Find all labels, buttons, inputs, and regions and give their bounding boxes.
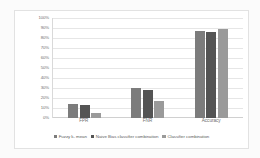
plot-wrapper: 100% 90% 80% 70% 60% 50% 40% 30% 20% 10%… (31, 18, 243, 125)
bar-fpr-series-2 (91, 113, 101, 118)
bar-fnr-series-2 (154, 101, 164, 118)
y-axis-tick: 20% (41, 96, 49, 100)
legend-label: Naive Bias classifier combination (96, 135, 159, 139)
y-axis-tick: 60% (41, 56, 49, 60)
legend-label: Classifier combination (167, 135, 209, 139)
legend-swatch-icon (54, 135, 57, 138)
bar-group-fnr (116, 18, 179, 118)
y-axis-tick: 10% (41, 106, 49, 110)
legend-item-fuzzy-k-mean[interactable]: Fuzzy k- mean (54, 135, 87, 139)
y-axis: 100% 90% 80% 70% 60% 50% 40% 30% 20% 10%… (31, 18, 51, 118)
plot-area (52, 18, 243, 118)
x-axis-label-accuracy: Accuracy (179, 119, 243, 124)
legend-swatch-icon (162, 135, 165, 138)
bar-accuracy-series-1 (206, 32, 216, 118)
legend-swatch-icon (91, 135, 94, 138)
bar-group-fpr (53, 18, 116, 118)
y-axis-tick: 40% (41, 76, 49, 80)
x-axis-label-fnr: FNR (116, 119, 180, 124)
bar-accuracy-series-0 (195, 31, 205, 118)
y-axis-tick: 90% (41, 26, 49, 30)
bar-chart: 100% 90% 80% 70% 60% 50% 40% 30% 20% 10%… (0, 0, 260, 158)
x-axis-label-fpr: FPR (52, 119, 116, 124)
y-axis-tick: 100% (38, 16, 49, 20)
legend-item-classifier-combination[interactable]: Classifier combination (162, 135, 209, 139)
y-axis-tick: 30% (41, 86, 49, 90)
bar-groups (53, 18, 243, 118)
bar-fnr-series-1 (143, 90, 153, 118)
bar-accuracy-series-2 (218, 29, 228, 118)
y-axis-tick: 70% (41, 46, 49, 50)
bar-group-accuracy (180, 18, 243, 118)
legend-item-naive-bias-classifier-combination[interactable]: Naive Bias classifier combination (91, 135, 159, 139)
bar-fpr-series-0 (68, 104, 78, 118)
bar-fpr-series-1 (80, 105, 90, 118)
chart-legend: Fuzzy k- mean Naive Bias classifier comb… (15, 135, 248, 139)
x-axis-labels: FPR FNR Accuracy (52, 119, 243, 124)
y-axis-tick: 0% (43, 116, 49, 120)
y-axis-tick: 80% (41, 36, 49, 40)
chart-frame: 100% 90% 80% 70% 60% 50% 40% 30% 20% 10%… (14, 10, 249, 149)
legend-label: Fuzzy k- mean (59, 135, 87, 139)
y-axis-tick: 50% (41, 66, 49, 70)
bar-fnr-series-0 (131, 88, 141, 118)
